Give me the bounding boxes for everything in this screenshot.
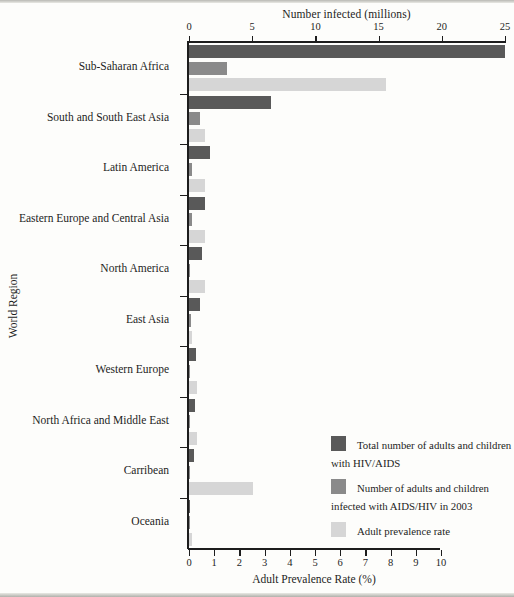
bottom-tick-mark — [315, 550, 316, 557]
bar — [189, 62, 227, 75]
y-tick-mark — [180, 498, 188, 499]
bar — [189, 247, 202, 260]
bar — [189, 230, 205, 243]
category-label: Western Europe — [0, 363, 178, 375]
bar — [189, 78, 386, 91]
bar — [189, 331, 192, 344]
top-tick-mark — [505, 36, 506, 43]
chart-legend: Total number of adults and children with… — [331, 435, 514, 558]
bar — [189, 197, 205, 210]
category-label: East Asia — [0, 313, 178, 325]
y-tick-mark — [180, 296, 188, 297]
bottom-tick-label: 0 — [186, 557, 191, 568]
bottom-tick-mark — [239, 550, 240, 557]
top-tick-label: 0 — [186, 21, 191, 32]
y-tick-mark — [180, 195, 188, 196]
hiv-aids-bar-chart: Number infected (millions) 0510152025 Wo… — [0, 0, 514, 597]
bar — [189, 280, 205, 293]
bottom-tick-label: 5 — [312, 557, 317, 568]
bar — [189, 314, 191, 327]
y-tick-mark — [180, 245, 188, 246]
legend-label: Adult prevalence rate — [357, 525, 450, 537]
bar — [189, 365, 190, 378]
bar — [189, 466, 190, 479]
bar — [189, 415, 190, 428]
y-tick-mark — [180, 144, 188, 145]
legend-label: Number of adults and children infected w… — [331, 482, 489, 512]
bar — [189, 298, 200, 311]
bar — [189, 146, 210, 159]
y-tick-mark — [180, 94, 188, 95]
legend-item: Adult prevalence rate — [331, 521, 514, 551]
category-label: Sub-Saharan Africa — [0, 60, 178, 72]
top-tick-mark — [315, 36, 316, 43]
bar — [189, 432, 197, 445]
bar — [189, 163, 192, 176]
bar — [189, 449, 194, 462]
legend-item: Total number of adults and children with… — [331, 435, 514, 471]
bottom-tick-label: 2 — [237, 557, 242, 568]
bar — [189, 264, 190, 277]
category-label: Latin America — [0, 161, 178, 173]
bottom-tick-label: 10 — [436, 557, 447, 568]
top-axis-line — [188, 41, 505, 43]
y-tick-mark — [180, 397, 188, 398]
legend-swatch — [331, 436, 346, 451]
category-label: Eastern Europe and Central Asia — [0, 212, 178, 224]
category-label: South and South East Asia — [0, 111, 178, 123]
bar — [189, 381, 197, 394]
bar — [189, 348, 196, 361]
category-label: North Africa and Middle East — [0, 414, 178, 426]
bar — [189, 213, 192, 226]
legend-item: Number of adults and children infected w… — [331, 478, 514, 514]
top-tick-label: 10 — [310, 21, 321, 32]
legend-label: Total number of adults and children with… — [331, 439, 511, 469]
bottom-tick-mark — [214, 550, 215, 557]
legend-swatch — [331, 522, 346, 537]
category-label: North America — [0, 262, 178, 274]
bottom-tick-label: 4 — [287, 557, 292, 568]
bottom-tick-label: 9 — [413, 557, 418, 568]
top-tick-label: 15 — [373, 21, 384, 32]
top-tick-mark — [252, 36, 253, 43]
bar — [189, 129, 205, 142]
category-label: Oceania — [0, 515, 178, 527]
top-tick-mark — [379, 36, 380, 43]
bar — [189, 45, 505, 58]
bar — [189, 500, 190, 513]
bottom-tick-mark — [189, 550, 190, 557]
bottom-tick-label: 3 — [262, 557, 267, 568]
top-tick-label: 20 — [437, 21, 448, 32]
bottom-tick-label: 6 — [338, 557, 343, 568]
bar — [189, 533, 192, 546]
top-tick-mark — [189, 36, 190, 43]
legend-swatch — [331, 479, 346, 494]
bar — [189, 516, 190, 529]
bar — [189, 96, 271, 109]
top-axis-title: Number infected (millions) — [188, 8, 505, 20]
top-tick-mark — [442, 36, 443, 43]
category-label: Carribean — [0, 464, 178, 476]
bar — [189, 399, 195, 412]
bottom-tick-label: 8 — [388, 557, 393, 568]
y-tick-mark — [180, 346, 188, 347]
bar — [189, 179, 205, 192]
top-tick-label: 25 — [500, 21, 511, 32]
bottom-tick-mark — [290, 550, 291, 557]
top-tick-label: 5 — [250, 21, 255, 32]
bar — [189, 482, 253, 495]
bottom-tick-mark — [265, 550, 266, 557]
bar — [189, 112, 200, 125]
bottom-tick-label: 7 — [363, 557, 368, 568]
y-tick-mark — [180, 447, 188, 448]
bottom-axis-title: Adult Prevalence Rate (%) — [188, 573, 440, 585]
bottom-tick-label: 1 — [212, 557, 217, 568]
